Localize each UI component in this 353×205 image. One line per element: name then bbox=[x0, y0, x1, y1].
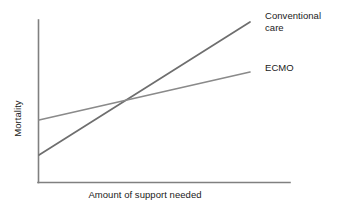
series-label-ecmo: ECMO bbox=[265, 62, 351, 74]
chart-figure: Conventional care ECMO Amount of support… bbox=[0, 0, 353, 205]
x-axis-title: Amount of support needed bbox=[0, 189, 290, 200]
series-line-conventional-care bbox=[39, 22, 250, 155]
series-line-ecmo bbox=[39, 72, 250, 120]
y-axis-title: Mortality bbox=[12, 79, 23, 159]
series-label-conventional-care: Conventional care bbox=[265, 10, 351, 33]
